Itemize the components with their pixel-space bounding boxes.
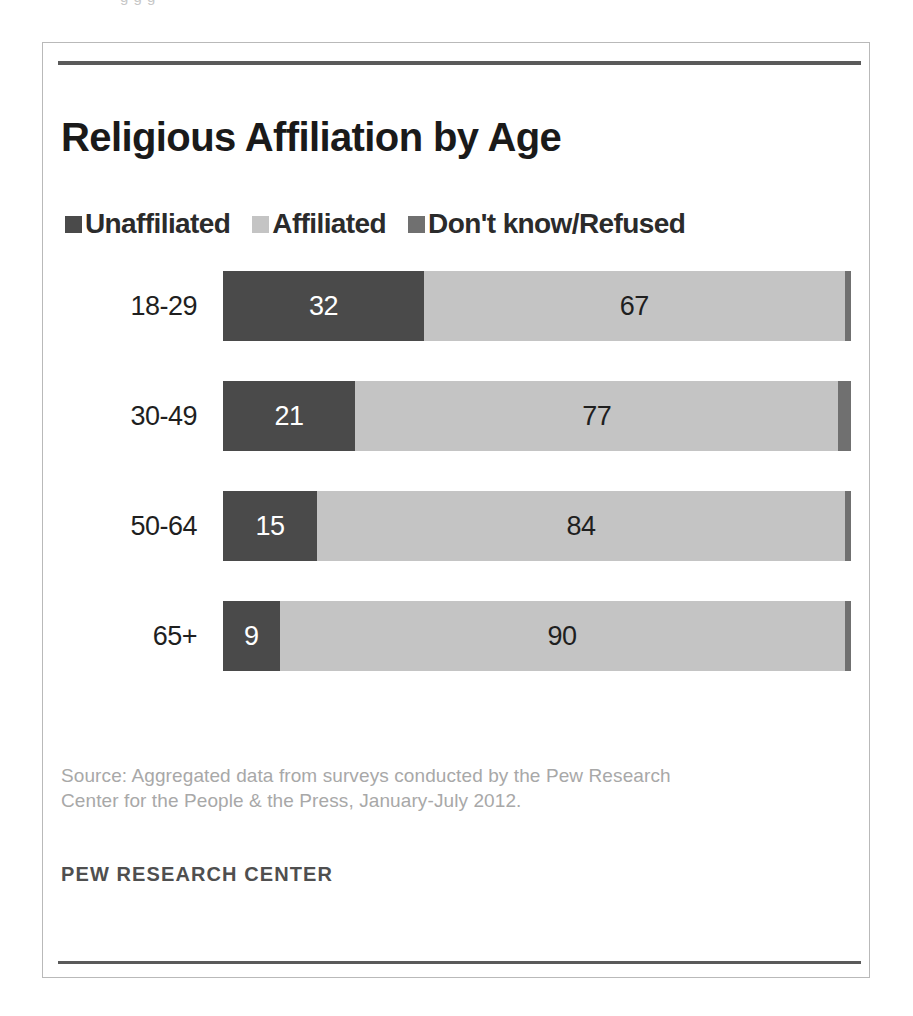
category-label-30-49: 30-49 [43,381,211,451]
chart-title: Religious Affiliation by Age [61,115,561,160]
top-rule [58,61,861,65]
chart-legend: Unaffiliated Affiliated Don't know/Refus… [65,208,865,240]
category-label-65-plus: 65+ [43,601,211,671]
bar-row: 18-29 32 67 [43,271,871,341]
bottom-rule [58,961,861,964]
figure-card: Religious Affiliation by Age Unaffiliate… [42,42,870,978]
bar-segment-unaffiliated[interactable]: 32 [223,271,424,341]
source-note: Source: Aggregated data from surveys con… [61,763,721,813]
bar-segment-unaffiliated[interactable]: 15 [223,491,317,561]
legend-item-unaffiliated[interactable]: Unaffiliated [65,208,230,240]
plot-area: 18-29 32 67 30-49 21 77 50-64 15 84 [43,271,871,711]
bar-segment-affiliated[interactable]: 67 [424,271,845,341]
bar-segment-affiliated[interactable]: 90 [280,601,845,671]
bar-segment-unaffiliated[interactable]: 21 [223,381,355,451]
category-label-18-29: 18-29 [43,271,211,341]
legend-label-dont-know: Don't know/Refused [428,208,685,240]
legend-item-affiliated[interactable]: Affiliated [252,208,386,240]
bar-segment-dont-know[interactable] [845,601,851,671]
brand-label: PEW RESEARCH CENTER [61,863,333,886]
stacked-bar-30-49[interactable]: 21 77 [223,381,851,451]
stacked-bar-50-64[interactable]: 15 84 [223,491,851,561]
bar-row: 50-64 15 84 [43,491,871,561]
legend-swatch-icon-dont-know [408,216,425,233]
bar-segment-affiliated[interactable]: 77 [355,381,839,451]
bar-segment-unaffiliated[interactable]: 9 [223,601,280,671]
legend-swatch-icon-unaffiliated [65,216,82,233]
clipped-top-text: g g g [0,0,913,14]
bar-segment-dont-know[interactable] [838,381,851,451]
bar-row: 65+ 9 90 [43,601,871,671]
category-label-50-64: 50-64 [43,491,211,561]
bar-segment-affiliated[interactable]: 84 [317,491,845,561]
clipped-top-text-line: g g g [120,0,156,5]
stacked-bar-18-29[interactable]: 32 67 [223,271,851,341]
legend-label-unaffiliated: Unaffiliated [85,208,230,240]
bar-row: 30-49 21 77 [43,381,871,451]
bar-segment-dont-know[interactable] [845,271,851,341]
stacked-bar-65-plus[interactable]: 9 90 [223,601,851,671]
legend-swatch-icon-affiliated [252,216,269,233]
bar-segment-dont-know[interactable] [845,491,851,561]
legend-item-dont-know[interactable]: Don't know/Refused [408,208,685,240]
legend-label-affiliated: Affiliated [272,208,386,240]
